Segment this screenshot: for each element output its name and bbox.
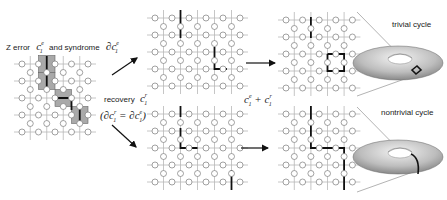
- qubit-circle: [283, 162, 289, 168]
- qubit-circle: [283, 85, 289, 91]
- qubit-circle: [283, 34, 289, 40]
- qubit-circle: [325, 120, 331, 126]
- qubit-circle: [169, 49, 175, 55]
- qubit-circle: [283, 68, 289, 74]
- error-syndrome-lattice: [14, 56, 96, 141]
- qubit-circle: [229, 41, 235, 47]
- qubit-circle: [152, 49, 158, 55]
- qubit-circle: [220, 179, 226, 185]
- qubit-circle: [203, 83, 209, 89]
- qubit-circle: [291, 120, 297, 126]
- qubit-circle: [203, 162, 209, 168]
- qubit-circle: [85, 61, 91, 67]
- qubit-circle: [291, 77, 297, 83]
- qubit-circle: [316, 68, 322, 74]
- qubit-circle: [341, 43, 347, 49]
- qubit-circle: [308, 43, 314, 49]
- qubit-circle: [44, 121, 50, 127]
- qubit-circle: [341, 120, 347, 126]
- qubit-circle: [152, 179, 158, 185]
- qubit-circle: [44, 104, 50, 110]
- qubit-circle: [300, 68, 306, 74]
- qubit-circle: [212, 41, 218, 47]
- qubit-circle: [203, 128, 209, 134]
- qubit-circle: [195, 41, 201, 47]
- qubit-circle: [237, 66, 243, 72]
- qubit-circle: [237, 15, 243, 21]
- qubit-circle: [333, 179, 339, 185]
- qubit-circle: [195, 75, 201, 81]
- qubit-circle: [178, 120, 184, 126]
- nontrivial-sum-lattice: [278, 106, 360, 190]
- qubit-circle: [152, 111, 158, 117]
- qubit-circle: [169, 15, 175, 21]
- qubit-circle: [229, 58, 235, 64]
- qubit-circle: [237, 83, 243, 89]
- qubit-circle: [152, 162, 158, 168]
- boundary-equation: (∂cr1 = ∂ce1): [100, 109, 146, 123]
- qubit-circle: [291, 171, 297, 177]
- qubit-circle: [308, 137, 314, 143]
- qubit-circle: [291, 137, 297, 143]
- qubit-circle: [229, 171, 235, 177]
- qubit-circle: [349, 128, 355, 134]
- qubit-circle: [283, 51, 289, 57]
- qubit-circle: [36, 112, 42, 118]
- qubit-circle: [237, 32, 243, 38]
- qubit-circle: [349, 34, 355, 40]
- qubit-circle: [349, 145, 355, 151]
- qubit-circle: [195, 24, 201, 30]
- qubit-circle: [152, 32, 158, 38]
- qubit-circle: [212, 58, 218, 64]
- qubit-circle: [341, 77, 347, 83]
- qubit-circle: [85, 112, 91, 118]
- qubit-circle: [220, 145, 226, 151]
- qubit-circle: [325, 77, 331, 83]
- qubit-circle: [195, 154, 201, 160]
- qubit-circle: [60, 70, 66, 76]
- qubit-circle: [229, 24, 235, 30]
- qubit-circle: [333, 162, 339, 168]
- qubit-circle: [203, 179, 209, 185]
- qubit-circle: [308, 77, 314, 83]
- qubit-circle: [186, 111, 192, 117]
- qubit-circle: [300, 179, 306, 185]
- qubit-circle: [212, 120, 218, 126]
- qubit-circle: [178, 41, 184, 47]
- qubit-circle: [291, 154, 297, 160]
- qubit-circle: [283, 179, 289, 185]
- recovery-text: recovery: [104, 95, 135, 104]
- qubit-circle: [349, 162, 355, 168]
- qubit-circle: [291, 26, 297, 32]
- qubit-circle: [36, 61, 42, 67]
- qubit-circle: [186, 179, 192, 185]
- qubit-circle: [300, 34, 306, 40]
- qubit-circle: [52, 95, 58, 101]
- qubit-circle: [85, 78, 91, 84]
- syndrome-symbol: ∂ce1: [106, 40, 118, 52]
- qubit-circle: [152, 83, 158, 89]
- nontrivial-cycle-label: nontrivial cycle: [381, 108, 433, 117]
- qubit-circle: [52, 61, 58, 67]
- qubit-circle: [152, 128, 158, 134]
- qubit-circle: [212, 154, 218, 160]
- qubit-circle: [186, 145, 192, 151]
- qubit-circle: [178, 137, 184, 143]
- qubit-circle: [316, 111, 322, 117]
- qubit-circle: [308, 60, 314, 66]
- qubit-circle: [152, 15, 158, 21]
- qubit-circle: [349, 85, 355, 91]
- qubit-circle: [186, 32, 192, 38]
- qubit-circle: [333, 85, 339, 91]
- qubit-circle: [237, 49, 243, 55]
- qubit-circle: [308, 154, 314, 160]
- qubit-circle: [220, 66, 226, 72]
- qubit-circle: [220, 32, 226, 38]
- qubit-circle: [300, 17, 306, 23]
- qubit-circle: [178, 75, 184, 81]
- qubit-circle: [316, 128, 322, 134]
- qubit-circle: [212, 171, 218, 177]
- qubit-circle: [325, 43, 331, 49]
- qubit-circle: [291, 60, 297, 66]
- qubit-circle: [341, 171, 347, 177]
